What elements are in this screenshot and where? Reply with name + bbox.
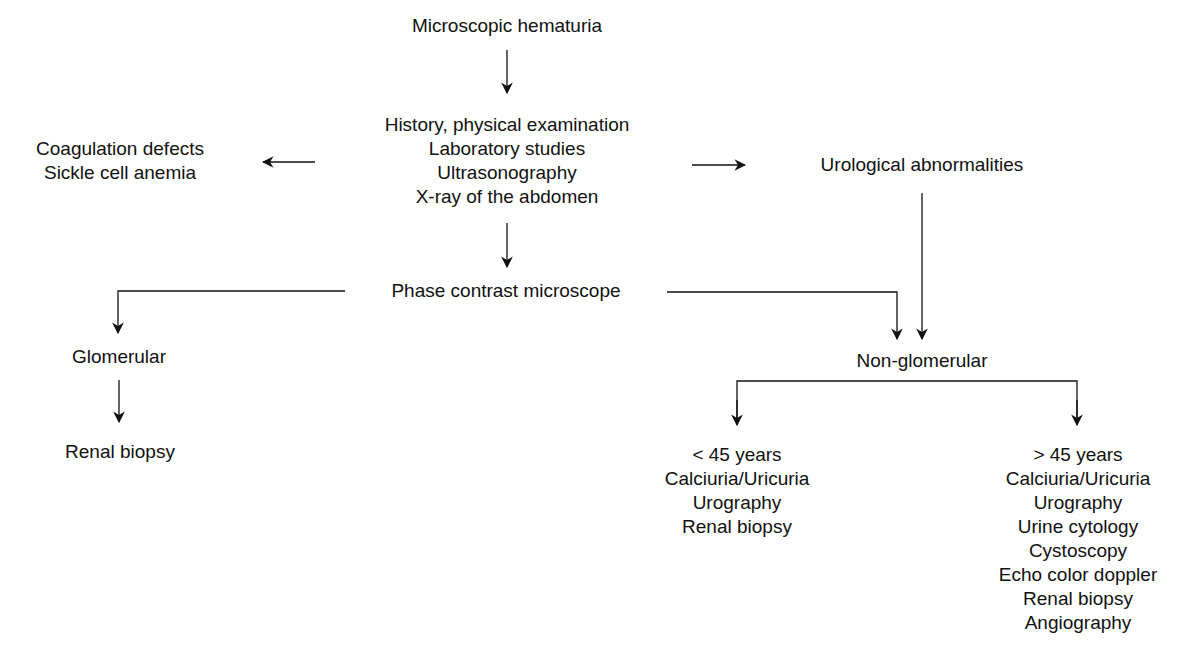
node-text: Coagulation defects	[36, 137, 204, 161]
node-text: Angiography	[999, 611, 1157, 635]
node-over-45: > 45 years Calciuria/Uricuria Urography …	[999, 443, 1157, 635]
node-coagulation-sickle: Coagulation defects Sickle cell anemia	[36, 137, 204, 185]
node-text: Sickle cell anemia	[36, 161, 204, 185]
arrow-nonglom-to-under45	[737, 381, 1077, 423]
arrow-phase-to-nonglom	[667, 292, 897, 339]
node-text: X-ray of the abdomen	[385, 185, 630, 209]
node-text: Glomerular	[72, 345, 166, 369]
node-text: Phase contrast microscope	[391, 279, 620, 303]
node-text: Laboratory studies	[385, 137, 630, 161]
node-non-glomerular: Non-glomerular	[857, 349, 988, 373]
node-text: Renal biopsy	[65, 440, 175, 464]
node-text: Urological abnormalities	[821, 153, 1024, 177]
node-text: Ultrasonography	[385, 161, 630, 185]
node-text: Microscopic hematuria	[412, 14, 602, 38]
arrow-phase-to-glom	[118, 291, 345, 333]
node-text: Non-glomerular	[857, 349, 988, 373]
node-under-45: < 45 years Calciuria/Uricuria Urography …	[665, 443, 810, 539]
node-text: Urography	[999, 491, 1157, 515]
node-text: Calciuria/Uricuria	[665, 467, 810, 491]
node-text: < 45 years	[665, 443, 810, 467]
node-text: Urography	[665, 491, 810, 515]
node-microscopic-hematuria: Microscopic hematuria	[412, 14, 602, 38]
node-text: Urine cytology	[999, 515, 1157, 539]
node-initial-workup: History, physical examination Laboratory…	[385, 113, 630, 209]
node-glomerular-renal-biopsy: Renal biopsy	[65, 440, 175, 464]
node-text: Renal biopsy	[665, 515, 810, 539]
node-text: Echo color doppler	[999, 563, 1157, 587]
node-text: Cystoscopy	[999, 539, 1157, 563]
node-phase-contrast: Phase contrast microscope	[391, 279, 620, 303]
node-text: Calciuria/Uricuria	[999, 467, 1157, 491]
node-text: Renal biopsy	[999, 587, 1157, 611]
node-glomerular: Glomerular	[72, 345, 166, 369]
node-urological-abnormalities: Urological abnormalities	[821, 153, 1024, 177]
node-text: History, physical examination	[385, 113, 630, 137]
node-text: > 45 years	[999, 443, 1157, 467]
